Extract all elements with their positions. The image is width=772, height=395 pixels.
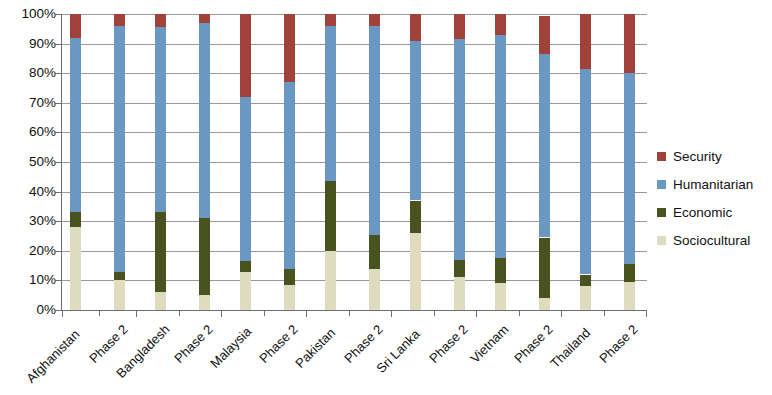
gridline <box>62 44 647 45</box>
bar-segment-security <box>624 14 635 73</box>
x-axis-tick-mark <box>99 311 100 316</box>
bar-segment-sociocultural <box>155 292 166 310</box>
x-axis-tick-mark <box>476 311 477 317</box>
x-axis-category-label: Afghanistan <box>24 327 82 385</box>
bar-segment-security <box>114 14 125 26</box>
y-axis-tick-mark <box>55 310 62 311</box>
gridline <box>62 280 647 281</box>
bar-segment-sociocultural <box>369 269 380 310</box>
y-axis-tick-label: 100% <box>10 7 56 21</box>
bar-column <box>410 14 421 310</box>
x-axis-tick-mark <box>136 311 137 317</box>
bar-column <box>624 14 635 310</box>
gridline <box>62 162 647 163</box>
x-axis-tick-mark <box>62 311 63 317</box>
bar-segment-sociocultural <box>325 251 336 310</box>
gridline <box>62 73 647 74</box>
bar-segment-security <box>495 14 506 35</box>
axis-baseline <box>62 310 647 311</box>
gridline <box>62 132 647 133</box>
bar-segment-humanitarian <box>539 54 550 238</box>
gridline <box>62 251 647 252</box>
x-axis-tick-mark <box>519 311 520 316</box>
bar-segment-economic <box>369 235 380 269</box>
legend-item: Economic <box>657 198 772 226</box>
bar-segment-humanitarian <box>369 26 380 235</box>
y-axis-tick-mark <box>55 73 62 74</box>
bar-column <box>114 14 125 310</box>
bar-segment-sociocultural <box>114 280 125 310</box>
bar-segment-security <box>70 14 81 38</box>
bar-segment-security <box>155 14 166 27</box>
chart-legend: SecurityHumanitarianEconomicSociocultura… <box>657 142 772 254</box>
x-axis-tick-mark <box>306 311 307 317</box>
bar-segment-humanitarian <box>325 26 336 181</box>
legend-label: Humanitarian <box>673 177 753 192</box>
bar-segment-humanitarian <box>410 41 421 201</box>
bar-segment-sociocultural <box>539 298 550 310</box>
bar-segment-economic <box>284 269 295 285</box>
bar-segment-sociocultural <box>284 285 295 310</box>
y-axis-tick-label: 70% <box>10 96 56 110</box>
bar-column <box>325 14 336 310</box>
bar-segment-security <box>199 14 210 23</box>
bar-segment-security <box>240 14 251 97</box>
bar-segment-economic <box>70 212 81 227</box>
bar-segment-economic <box>410 201 421 234</box>
x-axis-category-label: Phase 2 <box>597 322 640 365</box>
y-axis-tick-label: 60% <box>10 125 56 139</box>
bar-column <box>70 14 81 310</box>
y-axis-tick-mark <box>55 221 62 222</box>
bar-segment-economic <box>539 238 550 299</box>
bar-segment-humanitarian <box>284 82 295 268</box>
y-axis-tick-label: 50% <box>10 155 56 169</box>
legend-item: Sociocultural <box>657 226 772 254</box>
gridline <box>62 103 647 104</box>
bar-segment-economic <box>240 261 251 271</box>
bar-segment-sociocultural <box>240 272 251 310</box>
x-axis-tick-mark <box>221 311 222 317</box>
x-axis-tick-mark <box>179 311 180 316</box>
bar-segment-humanitarian <box>70 38 81 213</box>
legend-label: Sociocultural <box>673 233 750 248</box>
x-axis-category-label: Phase 2 <box>427 322 470 365</box>
y-axis-tick-mark <box>55 14 62 15</box>
bar-column <box>155 14 166 310</box>
legend-swatch-icon <box>657 208 666 217</box>
bar-column <box>369 14 380 310</box>
x-axis-tick-mark <box>349 311 350 316</box>
y-axis-tick-label: 0% <box>10 303 56 317</box>
bar-segment-economic <box>325 181 336 251</box>
bar-segment-sociocultural <box>624 282 635 310</box>
x-axis-tick-mark <box>264 311 265 316</box>
bar-column <box>284 14 295 310</box>
bar-segment-humanitarian <box>114 26 125 272</box>
gridline <box>62 221 647 222</box>
bar-segment-security <box>369 14 380 26</box>
bar-segment-economic <box>624 264 635 282</box>
bar-segment-sociocultural <box>495 283 506 310</box>
stacked-bar-chart: 100%90%80%70%60%50%40%30%20%10%0% Afghan… <box>0 0 772 395</box>
bar-column <box>580 14 591 310</box>
y-axis-tick-label: 20% <box>10 244 56 258</box>
bar-segment-economic <box>580 275 591 287</box>
legend-item: Humanitarian <box>657 170 772 198</box>
legend-swatch-icon <box>657 180 666 189</box>
y-axis-tick-mark <box>55 192 62 193</box>
gridline <box>62 14 647 15</box>
bar-segment-humanitarian <box>580 69 591 275</box>
bar-column <box>240 14 251 310</box>
bar-segment-sociocultural <box>410 233 421 310</box>
bar-segment-security <box>325 14 336 26</box>
x-axis-tick-mark <box>434 311 435 316</box>
x-axis-category-label: Vietnam <box>468 323 511 366</box>
y-axis-tick-label: 30% <box>10 214 56 228</box>
legend-swatch-icon <box>657 236 666 245</box>
bar-segment-sociocultural <box>580 286 591 310</box>
legend-label: Security <box>673 149 722 164</box>
bar-column <box>539 14 550 310</box>
y-axis-tick-mark <box>55 132 62 133</box>
x-axis-tick-mark <box>604 311 605 316</box>
bar-segment-economic <box>199 218 210 295</box>
bar-column <box>199 14 210 310</box>
